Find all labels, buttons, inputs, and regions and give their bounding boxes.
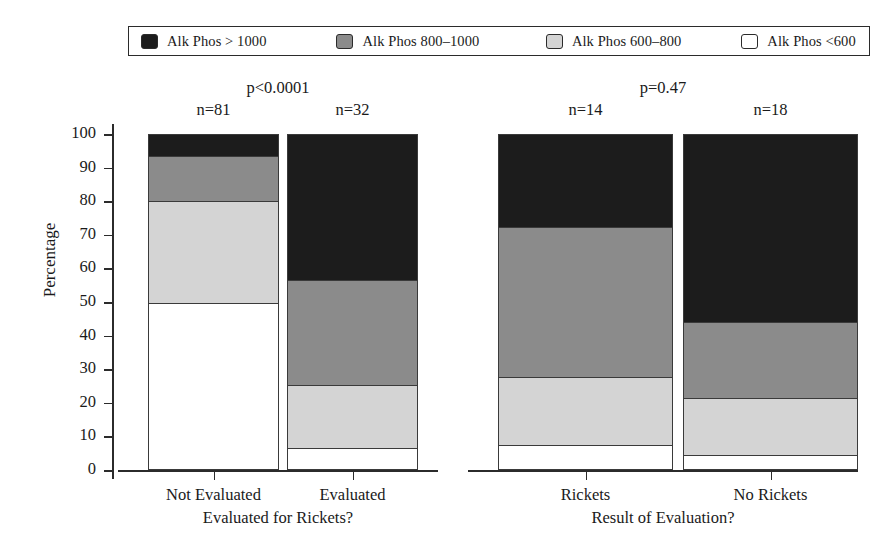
x-axis-category-label: No Rickets bbox=[671, 485, 871, 505]
legend-swatch-icon bbox=[141, 34, 158, 49]
legend-item-alk-phos-lt-600: Alk Phos <600 bbox=[729, 27, 869, 55]
bar-segment[interactable] bbox=[683, 455, 858, 470]
chart-legend: Alk Phos > 1000 Alk Phos 800–1000 Alk Ph… bbox=[128, 26, 870, 56]
bar-segment[interactable] bbox=[287, 280, 418, 385]
bar-segment[interactable] bbox=[148, 156, 279, 201]
y-axis-tick-mark bbox=[104, 436, 113, 438]
sample-size-label: n=81 bbox=[148, 100, 279, 120]
sample-size-label: n=32 bbox=[287, 100, 418, 120]
bar-segment[interactable] bbox=[148, 201, 279, 303]
x-axis-line bbox=[468, 470, 858, 472]
legend-item-alk-phos-800-1000: Alk Phos 800–1000 bbox=[324, 27, 533, 55]
bar-segment[interactable] bbox=[683, 398, 858, 455]
sample-size-label: n=14 bbox=[498, 100, 673, 120]
y-axis-tick-mark bbox=[104, 134, 113, 136]
bar-segment[interactable] bbox=[148, 134, 279, 156]
legend-swatch-icon bbox=[546, 34, 563, 49]
y-axis-tick-mark bbox=[104, 403, 113, 405]
y-axis-tick-mark bbox=[104, 168, 113, 170]
x-axis-tick-mark bbox=[214, 471, 216, 480]
y-axis-tick-mark bbox=[104, 268, 113, 270]
y-axis-tick-label: 100 bbox=[52, 125, 96, 142]
x-axis-category-label: Evaluated bbox=[253, 485, 453, 505]
stacked-bar[interactable] bbox=[287, 134, 418, 470]
y-axis-tick-label: 0 bbox=[52, 461, 96, 478]
legend-label: Alk Phos > 1000 bbox=[167, 33, 267, 50]
bar-segment[interactable] bbox=[148, 303, 279, 470]
chart-figure: Alk Phos > 1000 Alk Phos 800–1000 Alk Ph… bbox=[0, 0, 894, 559]
bar-segment[interactable] bbox=[683, 134, 858, 322]
bar-segment[interactable] bbox=[498, 227, 673, 377]
legend-swatch-icon bbox=[336, 34, 353, 49]
stacked-bar[interactable] bbox=[148, 134, 279, 470]
x-axis-line bbox=[118, 470, 438, 472]
legend-swatch-icon bbox=[741, 34, 758, 49]
y-axis-tick-label: 70 bbox=[52, 226, 96, 243]
x-axis-category-label: Rickets bbox=[486, 485, 686, 505]
p-value-label: p<0.0001 bbox=[118, 78, 438, 98]
legend-item-alk-phos-gt-1000: Alk Phos > 1000 bbox=[129, 27, 324, 55]
bar-segment[interactable] bbox=[498, 134, 673, 227]
legend-label: Alk Phos <600 bbox=[767, 33, 855, 50]
y-axis-tick-label: 90 bbox=[52, 159, 96, 176]
x-axis-title: Result of Evaluation? bbox=[468, 508, 858, 528]
sample-size-label: n=18 bbox=[683, 100, 858, 120]
bar-segment[interactable] bbox=[287, 385, 418, 448]
y-axis-tick-label: 10 bbox=[52, 427, 96, 444]
x-axis-title: Evaluated for Rickets? bbox=[118, 508, 438, 528]
bar-segment[interactable] bbox=[498, 445, 673, 470]
bar-segment[interactable] bbox=[287, 134, 418, 280]
legend-label: Alk Phos 600–800 bbox=[572, 33, 682, 50]
y-axis-tick-label: 40 bbox=[52, 327, 96, 344]
x-axis-tick-mark bbox=[586, 471, 588, 480]
bar-segment[interactable] bbox=[683, 322, 858, 398]
stacked-bar[interactable] bbox=[683, 134, 858, 470]
stacked-bar[interactable] bbox=[498, 134, 673, 470]
y-axis-tick-mark bbox=[104, 336, 113, 338]
y-axis-tick-label: 30 bbox=[52, 360, 96, 377]
legend-item-alk-phos-600-800: Alk Phos 600–800 bbox=[534, 27, 729, 55]
legend-label: Alk Phos 800–1000 bbox=[362, 33, 479, 50]
y-axis-tick-label: 60 bbox=[52, 259, 96, 276]
y-axis-tick-mark bbox=[104, 369, 113, 371]
y-axis-tick-mark bbox=[104, 201, 113, 203]
bar-segment[interactable] bbox=[498, 377, 673, 445]
y-axis-tick-mark bbox=[104, 302, 113, 304]
y-axis-tick-label: 80 bbox=[52, 192, 96, 209]
bar-segment[interactable] bbox=[287, 448, 418, 470]
y-axis-tick-mark bbox=[104, 470, 113, 472]
y-axis-tick-mark bbox=[104, 235, 113, 237]
y-axis-tick-label: 20 bbox=[52, 394, 96, 411]
y-axis-tick-label: 50 bbox=[52, 293, 96, 310]
x-axis-tick-mark bbox=[353, 471, 355, 480]
p-value-label: p=0.47 bbox=[468, 78, 858, 98]
x-axis-tick-mark bbox=[771, 471, 773, 480]
